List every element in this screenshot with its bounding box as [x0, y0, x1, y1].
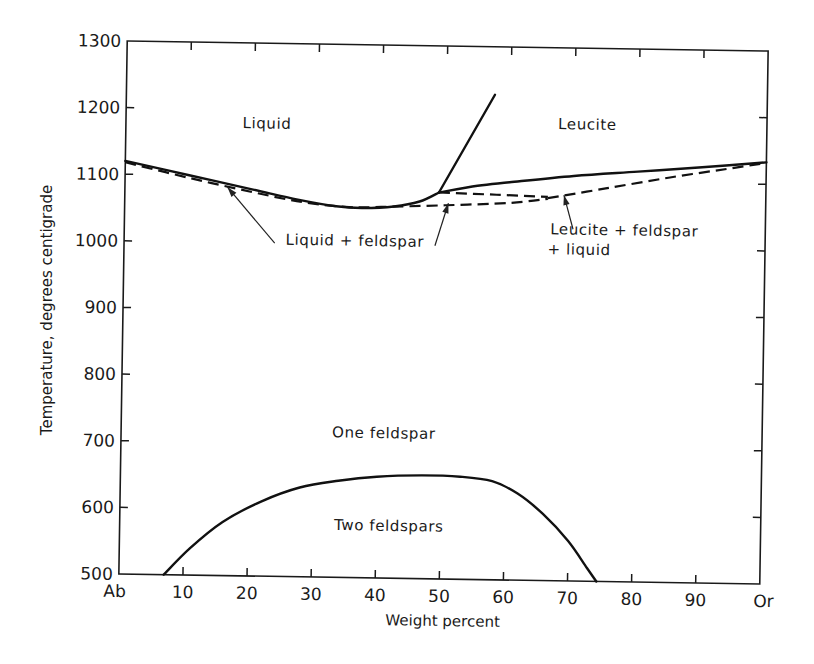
- x-tick-label: 50: [428, 586, 450, 606]
- y-tick-label: 500: [80, 563, 113, 584]
- region-label: Leucite: [558, 115, 617, 134]
- y-tick-label: 1100: [76, 163, 120, 184]
- x-tick-label: 30: [300, 584, 322, 604]
- region-labels: LiquidLeuciteLiquid + feldsparLeucite + …: [236, 110, 700, 540]
- plot-group: Ab102030405060708090Or 50060070080090010…: [69, 30, 783, 635]
- axis-ticks: [119, 41, 768, 584]
- region-label: Leucite + feldspar: [550, 220, 699, 240]
- x-tick-label: 60: [492, 587, 514, 607]
- phase-boundaries: [119, 89, 768, 584]
- y-tick-label: 1300: [78, 30, 122, 51]
- x-tick-label: 40: [364, 585, 386, 605]
- solidus-left-curve: [125, 162, 549, 210]
- x-tick-label: 90: [684, 590, 706, 610]
- x-tick-label: 70: [556, 588, 578, 608]
- y-tick-label: 900: [84, 297, 117, 318]
- x-tick-label: 10: [172, 582, 194, 602]
- y-tick-labels: 5006007008009001000110012001300: [69, 30, 121, 584]
- liquidus-leucite-field-curve: [439, 157, 766, 197]
- y-tick-label: 1200: [77, 97, 121, 118]
- x-tick-label: 20: [236, 583, 258, 603]
- y-tick-label: 700: [82, 430, 115, 451]
- y-tick-label: 800: [83, 363, 116, 384]
- region-label: One feldspar: [332, 423, 436, 443]
- x-tick-labels: Ab102030405060708090Or: [103, 581, 774, 612]
- x-axis-title: Weight percent: [385, 611, 500, 631]
- region-label: + liquid: [547, 240, 610, 259]
- y-axis-title: Temperature, degrees centigrade: [38, 185, 56, 436]
- leucite-feldspar-liquid-upper-boundary-curve: [439, 192, 548, 196]
- plot-frame: [119, 41, 768, 584]
- liquidus-feldspar-field-curve: [125, 161, 440, 209]
- x-tick-label: Ab: [103, 581, 126, 601]
- region-label: Liquid + feldspar: [286, 231, 425, 251]
- y-tick-label: 600: [81, 497, 114, 518]
- phase-diagram: Ab102030405060708090Or 50060070080090010…: [0, 0, 814, 664]
- x-tick-label: Or: [753, 591, 774, 611]
- x-tick-label: 80: [620, 589, 642, 609]
- y-tick-label: 1000: [75, 230, 119, 251]
- arrowhead-icon: [563, 195, 569, 206]
- region-label: Liquid: [242, 114, 291, 133]
- leucite-liquid-boundary-curve: [439, 94, 495, 193]
- region-label: Two feldspars: [333, 516, 444, 536]
